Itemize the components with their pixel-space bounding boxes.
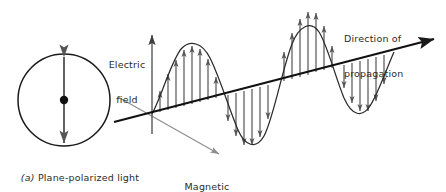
propagation-center-dot xyxy=(60,96,68,104)
magnetic-field-label: Magnetic field xyxy=(176,158,238,192)
direction-label-line2: propagation xyxy=(344,68,444,80)
direction-of-propagation-label: Direction of propagation xyxy=(344,10,444,102)
direction-label-line1: Direction of xyxy=(344,33,444,45)
electric-field-label-line2: field xyxy=(104,94,150,106)
plane-polarized-circle-group xyxy=(18,54,110,146)
electric-field-label-line1: Electric xyxy=(104,59,150,71)
figure-caption-text: Plane-polarized light xyxy=(38,172,139,183)
figure-caption: (a) Plane-polarized light xyxy=(8,160,168,192)
figure-root: Electric field Magnetic field Direction … xyxy=(0,0,446,192)
magnetic-field-label-line1: Magnetic xyxy=(176,181,238,192)
electric-field-label: Electric field xyxy=(104,36,150,128)
figure-caption-prefix: (a) xyxy=(21,172,35,183)
